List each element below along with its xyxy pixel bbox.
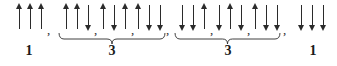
down-arrow-icon	[272, 3, 283, 31]
down-arrow-icon	[296, 3, 307, 31]
term-uuu: ,	[14, 3, 50, 33]
multiplicity-label-group-4: 1	[298, 44, 328, 58]
multiplicity-label-group-2: 3	[97, 44, 127, 58]
arrow-triple	[98, 3, 131, 31]
down-arrow-icon	[177, 3, 188, 31]
comma-separator: ,	[47, 23, 50, 36]
term-uud: ,	[61, 3, 97, 33]
up-arrow-icon	[199, 3, 210, 31]
arrow-triple	[296, 3, 329, 31]
comma-separator: ,	[166, 23, 169, 36]
arrow-triple	[177, 3, 210, 31]
up-arrow-icon	[98, 3, 109, 31]
up-arrow-icon	[133, 3, 144, 31]
arrow-triple	[61, 3, 94, 31]
term-ddd	[296, 3, 329, 33]
up-arrow-icon	[61, 3, 72, 31]
down-arrow-icon	[109, 3, 120, 31]
term-ddu: ,	[177, 3, 213, 33]
up-arrow-icon	[36, 3, 47, 31]
term-udd-b: ,	[250, 3, 286, 33]
down-arrow-icon	[83, 3, 94, 31]
down-arrow-icon	[307, 3, 318, 31]
up-arrow-icon	[225, 3, 236, 31]
up-arrow-icon	[25, 3, 36, 31]
arrow-triple	[14, 3, 47, 31]
multiplicity-label-group-1: 1	[14, 44, 44, 58]
down-arrow-icon	[155, 3, 166, 31]
down-arrow-icon	[144, 3, 155, 31]
down-arrow-icon	[236, 3, 247, 31]
arrow-triple	[214, 3, 247, 31]
down-arrow-icon	[188, 3, 199, 31]
down-arrow-icon	[318, 3, 329, 31]
term-udu: ,	[98, 3, 134, 33]
term-udd-a: ,	[133, 3, 169, 33]
up-arrow-icon	[14, 3, 25, 31]
arrow-triple	[250, 3, 283, 31]
arrow-triple	[133, 3, 166, 31]
down-arrow-icon	[214, 3, 225, 31]
term-dud: ,	[214, 3, 250, 33]
comma-separator: ,	[283, 23, 286, 36]
up-arrow-icon	[120, 3, 131, 31]
spin-configuration-figure: , , , ,	[0, 0, 337, 66]
up-arrow-icon	[72, 3, 83, 31]
arrow-row: , , , ,	[0, 0, 337, 36]
up-arrow-icon	[250, 3, 261, 31]
multiplicity-label-group-3: 3	[213, 44, 243, 58]
down-arrow-icon	[261, 3, 272, 31]
